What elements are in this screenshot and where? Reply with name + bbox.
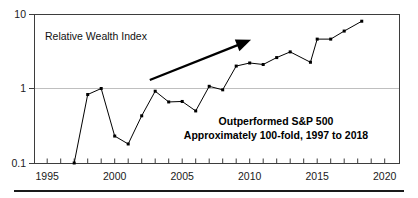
x-tick-label-2005: 2005 bbox=[171, 170, 195, 182]
annotation-line-2: Approximately 100-fold, 1997 to 2018 bbox=[184, 129, 369, 141]
data-point-marker bbox=[221, 88, 224, 91]
x-tick-label-2020: 2020 bbox=[373, 170, 397, 182]
data-point-marker bbox=[140, 114, 143, 117]
data-point-marker bbox=[181, 100, 184, 103]
data-point-marker bbox=[248, 61, 251, 64]
chart-figure: 10 1 0.1 bbox=[0, 0, 418, 198]
data-point-marker bbox=[113, 135, 116, 138]
data-point-marker bbox=[194, 109, 197, 112]
x-tick-label-2010: 2010 bbox=[238, 170, 262, 182]
data-point-marker bbox=[154, 90, 157, 93]
x-tick-label-2000: 2000 bbox=[103, 170, 127, 182]
data-point-marker bbox=[100, 87, 103, 90]
data-point-marker bbox=[275, 56, 278, 59]
plot-inner-label: Relative Wealth Index bbox=[45, 30, 148, 42]
data-point-marker bbox=[262, 63, 265, 66]
data-point-marker bbox=[127, 142, 130, 145]
data-point-marker bbox=[329, 38, 332, 41]
data-point-marker bbox=[289, 50, 292, 53]
annotation-line-1: Outperformed S&P 500 bbox=[219, 115, 334, 127]
data-point-marker bbox=[316, 38, 319, 41]
data-point-marker bbox=[360, 20, 363, 23]
y-tick-label-1: 1 bbox=[20, 82, 26, 94]
data-point-marker bbox=[208, 85, 211, 88]
data-point-marker bbox=[73, 162, 76, 165]
y-tick-label-0.1: 0.1 bbox=[11, 157, 26, 169]
x-tick-label-1995: 1995 bbox=[36, 170, 60, 182]
relative-wealth-index-chart: 10 1 0.1 bbox=[0, 0, 418, 198]
data-point-marker bbox=[235, 65, 238, 68]
y-tick-label-10: 10 bbox=[14, 8, 26, 20]
x-tick-label-2015: 2015 bbox=[306, 170, 330, 182]
data-point-marker bbox=[309, 61, 312, 64]
data-point-marker bbox=[343, 30, 346, 33]
data-point-marker bbox=[167, 100, 170, 103]
data-point-marker bbox=[86, 93, 89, 96]
